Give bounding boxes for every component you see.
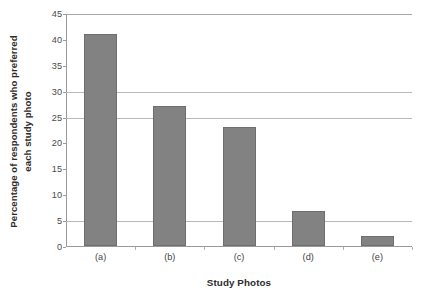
x-tick-mark-4 [343,247,344,250]
y-tick-label-25: 25 [52,113,62,123]
y-tick-label-15: 15 [52,164,62,174]
gridline-25 [66,118,412,119]
x-tick-label-4: (d) [303,252,314,262]
x-tick-mark-2 [204,247,205,250]
bar-3 [223,127,256,246]
bar-chart-figure: Percentage of respondents who preferred … [0,0,425,305]
y-tick-mark-25 [63,118,66,119]
plot-area [66,14,412,247]
y-axis-tick-labels: 051015202530354045 [38,14,62,247]
x-tick-label-3: (c) [234,252,245,262]
y-tick-label-20: 20 [52,138,62,148]
y-tick-mark-10 [63,195,66,196]
bar-2 [153,106,186,246]
y-tick-label-40: 40 [52,35,62,45]
x-tick-mark-3 [274,247,275,250]
x-tick-label-1: (a) [95,252,106,262]
y-tick-mark-45 [63,14,66,15]
y-tick-label-45: 45 [52,9,62,19]
y-tick-mark-15 [63,169,66,170]
gridline-30 [66,92,412,93]
y-tick-label-0: 0 [57,242,62,252]
y-tick-label-5: 5 [57,216,62,226]
x-axis-tick-labels: (a)(b)(c)(d)(e) [66,252,412,268]
gridline-45 [66,14,412,15]
x-axis-line [66,246,412,247]
y-axis-line [66,14,67,247]
y-tick-mark-40 [63,40,66,41]
y-tick-mark-5 [63,221,66,222]
bar-4 [292,211,325,246]
y-axis-title: Percentage of respondents who preferred … [0,0,40,262]
y-tick-mark-35 [63,66,66,67]
y-tick-mark-30 [63,92,66,93]
x-tick-label-2: (b) [164,252,175,262]
y-tick-label-10: 10 [52,190,62,200]
x-tick-mark-5 [412,247,413,250]
bar-1 [84,34,117,246]
x-axis-title: Study Photos [66,277,412,288]
y-tick-mark-0 [63,247,66,248]
y-tick-label-35: 35 [52,61,62,71]
y-tick-mark-20 [63,143,66,144]
y-tick-label-30: 30 [52,87,62,97]
y-axis-title-line-2: each study photo [20,35,34,227]
x-tick-label-5: (e) [372,252,383,262]
y-axis-title-line-1: Percentage of respondents who preferred [7,35,21,227]
bar-5 [361,236,394,246]
x-tick-mark-1 [135,247,136,250]
